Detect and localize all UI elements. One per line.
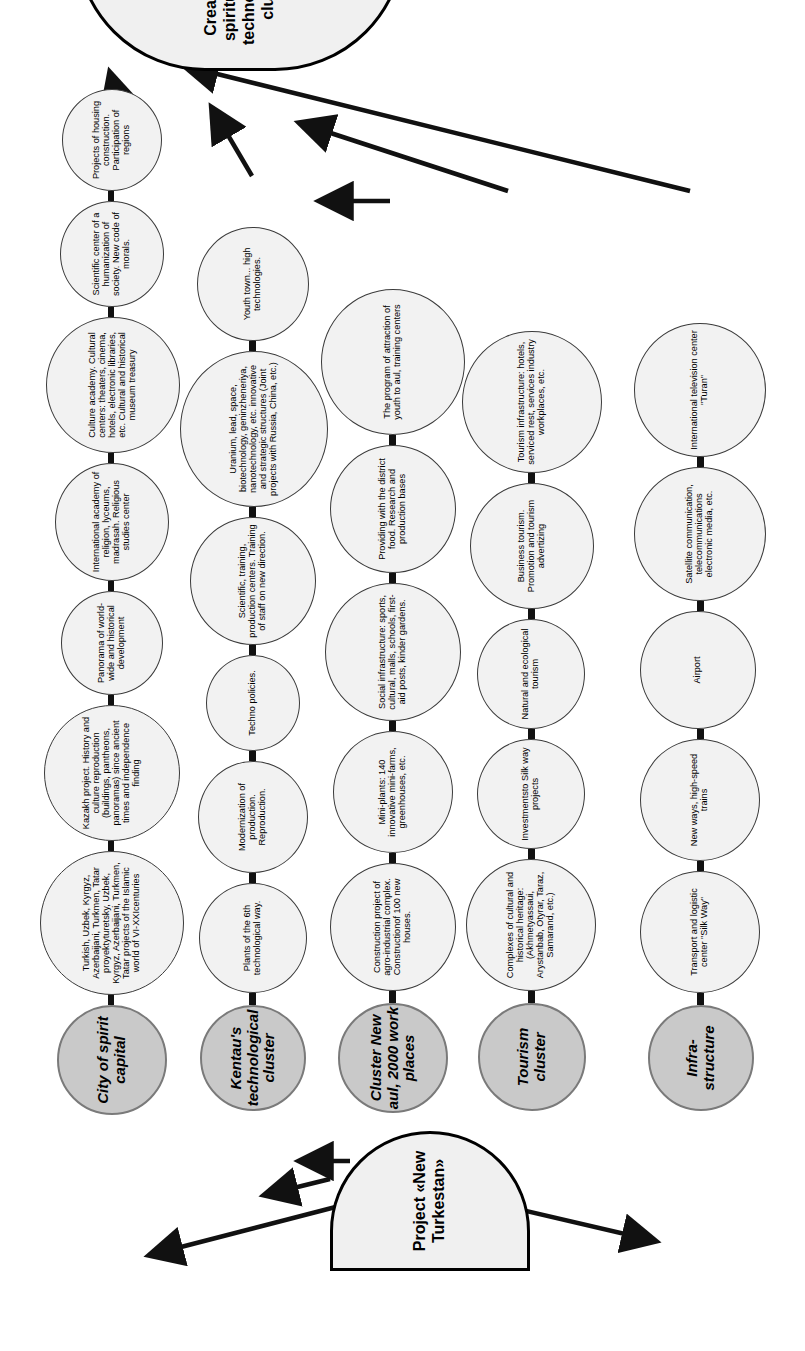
cluster-kentaus-technological-cluster[interactable]: Kentau's technological cluster: [200, 1005, 306, 1111]
connector: [249, 507, 256, 517]
branch-node-label: Scientific, training, production centers…: [238, 524, 268, 638]
branch-node-label: Modernization of production. Reproductio…: [238, 768, 268, 866]
cluster-label: Infra-structure: [684, 1007, 718, 1109]
cluster-city-of-spirit-capital[interactable]: City of spirit capital: [57, 1005, 167, 1115]
source-terminal-label: Project «New Turkestan»: [411, 1134, 449, 1268]
branch-node-label: International academy of religion, lyceu…: [92, 470, 132, 574]
branch-node[interactable]: Social infrastructure: sports, cultural,…: [325, 583, 461, 721]
branch-node[interactable]: Kazakh project. History and culture repr…: [44, 705, 180, 841]
branch-node[interactable]: Natural and ecological tourism: [477, 619, 585, 729]
branch-node[interactable]: Complexes of cultural and historical her…: [466, 859, 596, 991]
cluster-infrastructure[interactable]: Infra-structure: [648, 1005, 754, 1111]
connector: [108, 307, 114, 317]
connector: [389, 853, 396, 863]
connector: [389, 991, 396, 1003]
branch-node-label: Panorama of world-wide and historical de…: [97, 598, 127, 688]
goal-terminal-label: Creation of spiritual and technological …: [202, 0, 278, 68]
branch-node[interactable]: Uranium, lead, space, biotechnology, gen…: [180, 351, 328, 507]
branch-node-label: Projects of housing construction. Partic…: [92, 96, 132, 184]
branch-node-label: Techno policies.: [248, 670, 258, 735]
diagram-canvas: Project «New Turkestan» Creation of spir…: [0, 0, 805, 1351]
connector: [389, 435, 396, 445]
branch-node-label: Plants of the 6th technological way.: [243, 890, 263, 986]
branch-node[interactable]: Techno policies.: [206, 655, 300, 751]
branch-node-label: Business tourism. Promotion and tourism …: [517, 490, 547, 602]
connector: [389, 721, 396, 731]
branch-node-label: The program of attraction of youth to au…: [383, 296, 403, 428]
branch-node[interactable]: Youth town... high technologies.: [197, 227, 309, 341]
branch-node-label: Natural and ecological tourism: [521, 626, 541, 722]
branch-node-label: Satellite communication, telecommunicati…: [685, 474, 715, 594]
goal-terminal[interactable]: Creation of spiritual and technological …: [75, 0, 405, 71]
branch-node[interactable]: Tourism infrastructure: hotels, serviced…: [462, 331, 602, 473]
connector: [697, 729, 704, 739]
branch-node[interactable]: International television center "Turan": [634, 323, 766, 457]
connector: [249, 993, 256, 1005]
connector: [108, 453, 114, 463]
branch-node[interactable]: Investmentsto Silk way projects: [477, 739, 585, 849]
connector: [389, 573, 396, 583]
branch-node[interactable]: Turkish, Uzbek, Kyrgyz, Azerbaijani, Tur…: [40, 851, 184, 995]
branch-node[interactable]: Construction project of agro-industrial …: [330, 863, 456, 991]
branch-node-label: Construction project of agro-industrial …: [373, 870, 413, 984]
connector: [108, 841, 114, 851]
cluster-label: Kentau's technological cluster: [228, 1007, 278, 1109]
branch-node-label: Uranium, lead, space, biotechnology, gen…: [229, 358, 279, 500]
branch-node-label: Culture academy. Cultural centers: theat…: [88, 324, 138, 446]
connector: [697, 601, 704, 611]
branch-node[interactable]: Modernization of production. Reproductio…: [198, 761, 308, 873]
connector: [108, 581, 114, 591]
connector: [249, 341, 256, 351]
connector: [697, 457, 704, 467]
connector: [249, 645, 256, 655]
branch-node[interactable]: Projects of housing construction. Partic…: [62, 89, 162, 191]
branch-node[interactable]: Satellite communication, telecommunicati…: [634, 467, 766, 601]
branch-node[interactable]: Plants of the 6th technological way.: [199, 883, 307, 993]
branch-node-label: Kazakh project. History and culture repr…: [82, 712, 142, 834]
branch-node-label: Mini-plants: 140 innovative mini-farms, …: [378, 738, 408, 846]
cluster-label: City of spirit capital: [95, 1007, 129, 1113]
branch-node-label: Turkish, Uzbek, Kyrgyz, Azerbaijani, Tur…: [82, 858, 142, 988]
branch-node-label: International television center "Turan": [690, 330, 710, 450]
branch-node-label: Tourism infrastructure: hotels, serviced…: [517, 338, 547, 466]
branch-node-label: Social infrastructure: sports, cultural,…: [378, 590, 408, 714]
connector: [108, 191, 114, 201]
branch-node[interactable]: Transport and logistic center "Silk Way": [640, 871, 760, 993]
branch-node-label: Airport: [693, 656, 703, 683]
cluster-label: Cluster New aul, 2000 work places: [368, 1005, 418, 1111]
branch-node[interactable]: Airport: [640, 611, 756, 729]
connector: [528, 473, 535, 483]
connector: [697, 993, 704, 1005]
connector: [528, 729, 535, 739]
branch-node[interactable]: Mini-plants: 140 innovative mini-farms, …: [333, 731, 453, 853]
branch-node-label: Youth town... high technologies.: [243, 234, 263, 334]
connector: [249, 751, 256, 761]
branch-node[interactable]: Business tourism. Promotion and tourism …: [470, 483, 594, 609]
source-terminal-project[interactable]: Project «New Turkestan»: [330, 1131, 530, 1271]
branch-node[interactable]: Panorama of world-wide and historical de…: [61, 591, 163, 695]
connector: [528, 849, 535, 859]
branch-node-label: Complexes of cultural and historical her…: [506, 866, 556, 984]
connector: [697, 861, 704, 871]
branch-node-label: Investmentsto Silk way projects: [521, 746, 541, 842]
cluster-tourism[interactable]: Tourism cluster: [478, 1003, 586, 1111]
connector: [249, 873, 256, 883]
branch-node[interactable]: Culture academy. Cultural centers: theat…: [46, 317, 180, 453]
branch-node[interactable]: Scientific center of a humanization of s…: [60, 201, 164, 307]
branch-node-label: Transport and logistic center "Silk Way": [690, 878, 710, 986]
branch-node[interactable]: New ways, high-speed trains: [640, 739, 760, 861]
connector: [528, 991, 535, 1003]
connector: [528, 609, 535, 619]
branch-node-label: Providing with the district food. Resear…: [378, 452, 408, 566]
branch-node[interactable]: Providing with the district food. Resear…: [330, 445, 456, 573]
cluster-new-aul[interactable]: Cluster New aul, 2000 work places: [338, 1003, 448, 1113]
cluster-label: Tourism cluster: [515, 1005, 549, 1109]
branch-node[interactable]: International academy of religion, lyceu…: [55, 463, 169, 581]
branch-node[interactable]: Scientific, training, production centers…: [190, 517, 316, 645]
branch-node-label: Scientific center of a humanization of s…: [92, 208, 132, 300]
connector: [108, 695, 114, 705]
branch-node[interactable]: The program of attraction of youth to au…: [321, 289, 465, 435]
branch-node-label: New ways, high-speed trains: [690, 746, 710, 854]
